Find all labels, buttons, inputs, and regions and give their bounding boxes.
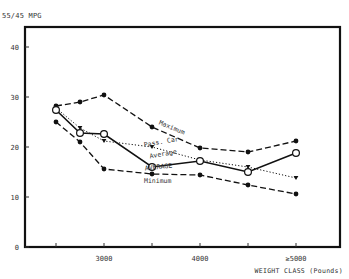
data-point-marker xyxy=(198,173,203,178)
data-point-marker xyxy=(293,150,300,157)
data-point-marker xyxy=(246,150,251,155)
y-tick-label: 40 xyxy=(11,44,19,52)
series-annotation: Average xyxy=(149,148,177,161)
data-point-marker xyxy=(294,192,299,197)
series-annotation: Minimum xyxy=(144,177,171,185)
x-tick-label: 3000 xyxy=(96,255,113,263)
series-annotation: AVERAGE xyxy=(144,162,172,173)
data-point-marker xyxy=(102,93,107,98)
y-tick-label: 30 xyxy=(11,94,19,102)
data-point-marker xyxy=(197,158,204,165)
data-point-marker xyxy=(150,125,155,130)
y-tick-label: 0 xyxy=(15,244,19,252)
data-point-marker xyxy=(102,139,107,143)
data-point-marker xyxy=(53,107,60,114)
data-point-marker xyxy=(246,183,251,188)
data-point-marker xyxy=(294,176,299,180)
data-point-marker xyxy=(77,130,84,137)
series-annotation: Maximum xyxy=(158,119,186,137)
data-point-marker xyxy=(54,120,59,125)
y-tick-label: 20 xyxy=(11,144,19,152)
plot-frame xyxy=(25,27,340,247)
data-point-marker xyxy=(102,167,107,172)
data-point-marker xyxy=(150,172,155,177)
data-point-marker xyxy=(78,100,83,105)
data-point-marker xyxy=(294,139,299,144)
x-tick-label: ≥5000 xyxy=(285,255,306,263)
data-point-marker xyxy=(198,146,203,151)
series-annotation: Pass. Car xyxy=(143,135,179,149)
x-tick-label: 4000 xyxy=(192,255,209,263)
line-chart: 01020304030004000≥5000MaximumPass. CarAv… xyxy=(0,0,349,279)
data-point-marker xyxy=(78,140,83,145)
data-point-marker xyxy=(245,169,252,176)
data-point-marker xyxy=(101,131,108,138)
y-tick-label: 10 xyxy=(11,194,19,202)
